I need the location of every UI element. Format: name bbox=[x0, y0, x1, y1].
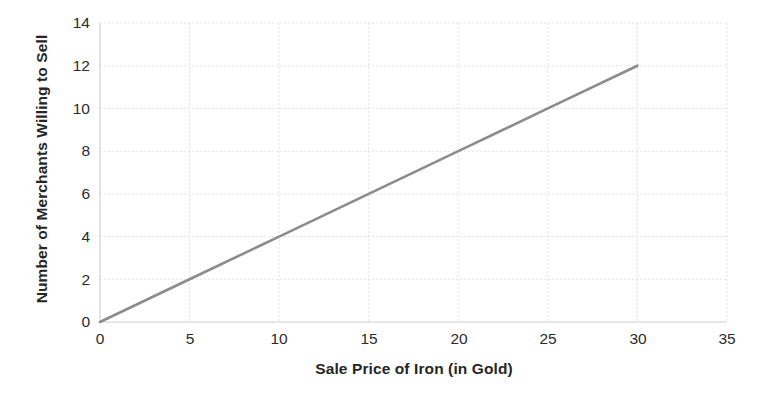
plot-area bbox=[0, 0, 775, 400]
chart-figure: Number of Merchants Willing to Sell 14 1… bbox=[0, 0, 775, 400]
